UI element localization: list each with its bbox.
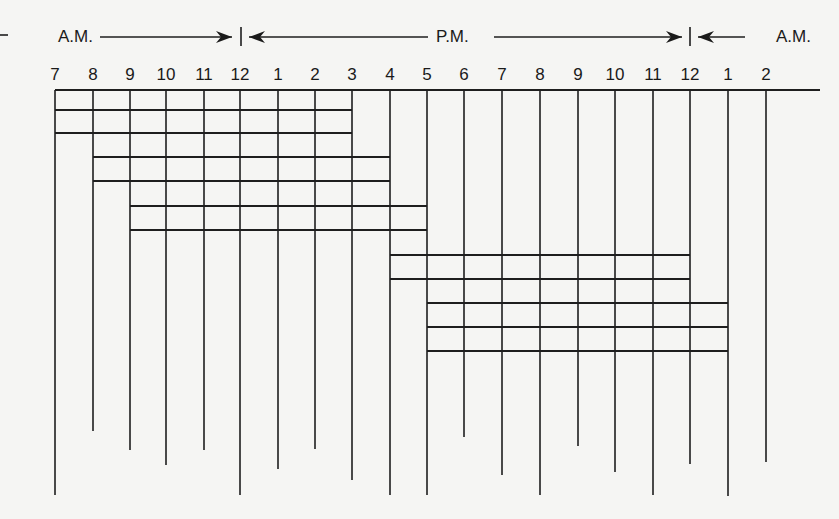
period-arrow-icon bbox=[494, 31, 682, 43]
hour-label: 12 bbox=[231, 65, 250, 84]
period-arrow-icon bbox=[249, 31, 428, 43]
shift-timeline-diagram: A.M.P.M.A.M. 78910111212345678910111212 bbox=[0, 0, 839, 519]
hour-label: 8 bbox=[88, 65, 97, 84]
hour-lines bbox=[55, 90, 766, 496]
hour-labels: 78910111212345678910111212 bbox=[50, 65, 770, 84]
hour-label: 1 bbox=[273, 65, 282, 84]
hour-label: 8 bbox=[535, 65, 544, 84]
hour-label: 11 bbox=[195, 65, 213, 84]
hour-label: 7 bbox=[497, 65, 506, 84]
hour-label: 3 bbox=[347, 65, 356, 84]
hour-label: 7 bbox=[50, 65, 59, 84]
period-label: A.M. bbox=[776, 27, 811, 46]
hour-label: 11 bbox=[644, 65, 662, 84]
period-label: P.M. bbox=[436, 27, 469, 46]
period-header: A.M.P.M.A.M. bbox=[0, 27, 811, 46]
hour-label: 4 bbox=[385, 65, 394, 84]
shift-lines bbox=[55, 90, 820, 351]
hour-label: 5 bbox=[422, 65, 431, 84]
hour-label: 10 bbox=[157, 65, 176, 84]
hour-label: 6 bbox=[459, 65, 468, 84]
period-label: A.M. bbox=[58, 27, 93, 46]
period-arrow-icon bbox=[698, 31, 745, 43]
hour-label: 12 bbox=[681, 65, 700, 84]
period-arrow-icon bbox=[100, 31, 232, 43]
hour-label: 9 bbox=[573, 65, 582, 84]
hour-label: 1 bbox=[723, 65, 732, 84]
hour-label: 2 bbox=[761, 65, 770, 84]
hour-label: 2 bbox=[310, 65, 319, 84]
hour-label: 9 bbox=[125, 65, 134, 84]
hour-label: 10 bbox=[606, 65, 625, 84]
